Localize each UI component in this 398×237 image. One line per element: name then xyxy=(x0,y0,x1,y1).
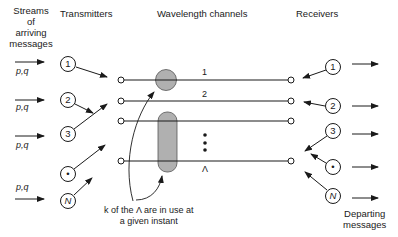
annotation-arrows xyxy=(129,92,162,201)
channel-label-2: 2 xyxy=(202,89,207,100)
channel-label-1: 1 xyxy=(202,67,207,78)
receiver-1: 1 xyxy=(327,61,339,72)
channel-label-lambda: Λ xyxy=(202,164,208,175)
transmitter-3: 3 xyxy=(62,128,74,139)
input-arrows xyxy=(15,62,44,199)
receiver-arrows xyxy=(303,70,327,190)
transmitter-n: N xyxy=(62,195,74,206)
receiver-3: 3 xyxy=(327,125,339,136)
receiver-n: N xyxy=(327,190,339,201)
departing-line: Departing xyxy=(343,208,386,219)
transmitter-arrows xyxy=(74,67,107,195)
transmitter-2: 2 xyxy=(62,94,74,105)
annotation-line: k of the Λ are in use at xyxy=(104,205,194,216)
transmitter-dot: • xyxy=(62,168,74,179)
wdm-diagram xyxy=(0,0,398,237)
departing-line: messages xyxy=(343,219,386,230)
channel-ellipsis xyxy=(203,133,207,152)
annotation-line: a given instant xyxy=(104,216,194,227)
output-arrows xyxy=(352,64,378,198)
receiver-2: 2 xyxy=(327,100,339,111)
departing-label: Departing messages xyxy=(343,208,386,230)
transmitter-1: 1 xyxy=(62,58,74,69)
receiver-dot: • xyxy=(327,161,339,172)
annotation-text: k of the Λ are in use at a given instant xyxy=(104,205,194,227)
